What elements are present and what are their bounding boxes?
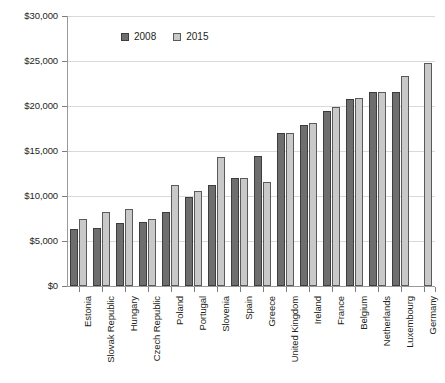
bar-group <box>274 16 297 286</box>
x-axis-tick <box>378 287 379 292</box>
bar <box>378 92 386 286</box>
bar-group <box>366 16 389 286</box>
x-axis-tick <box>171 287 172 292</box>
bar <box>70 229 78 286</box>
x-axis-label: United Kingdom <box>290 296 300 362</box>
bar <box>277 133 285 286</box>
plot-area: $0$5,000$10,000$15,000$20,000$25,000$30,… <box>67 16 435 286</box>
legend-swatch-2015-icon <box>173 33 181 41</box>
y-axis-label-20000: $20,000 <box>24 101 58 111</box>
x-axis-label: Poland <box>175 296 185 325</box>
bar <box>300 125 308 286</box>
x-axis-tick <box>148 287 149 292</box>
bar-group <box>343 16 366 286</box>
x-axis-tick <box>401 287 402 292</box>
y-axis-label-5000: $5,000 <box>30 236 58 246</box>
x-axis-label: Slovenia <box>221 296 231 332</box>
bar-group <box>251 16 274 286</box>
x-axis-label: Slovak Republic <box>106 296 116 363</box>
legend-label-2015: 2015 <box>186 32 208 42</box>
bar <box>240 178 248 286</box>
bar <box>162 212 170 286</box>
x-axis-tick <box>125 287 126 292</box>
bar <box>217 157 225 286</box>
bar <box>254 156 262 287</box>
bar <box>148 219 156 287</box>
bar-chart: $0$5,000$10,000$15,000$20,000$25,000$30,… <box>0 0 445 383</box>
y-axis-label-0: $0 <box>48 281 58 291</box>
y-axis-label-15000: $15,000 <box>24 146 58 156</box>
bar <box>79 219 87 287</box>
x-axis-label: Estonia <box>83 296 93 327</box>
bar-group <box>389 16 412 286</box>
bar <box>369 92 377 286</box>
legend-swatch-2008-icon <box>121 33 129 41</box>
bar-group <box>67 16 90 286</box>
x-axis-label: France <box>336 296 346 325</box>
y-axis-label-30000: $30,000 <box>24 11 58 21</box>
x-axis-tick <box>332 287 333 292</box>
y-axis-label-10000: $10,000 <box>24 191 58 201</box>
bar <box>102 212 110 286</box>
x-axis-end-tick <box>435 287 436 292</box>
bar-group <box>159 16 182 286</box>
chart-legend: 2008 2015 <box>121 32 209 42</box>
bar <box>346 99 354 286</box>
x-axis-tick <box>309 287 310 292</box>
bar <box>125 209 133 286</box>
bar-group <box>136 16 159 286</box>
x-axis-tick <box>424 287 425 292</box>
bar <box>194 191 202 286</box>
legend-item-2008: 2008 <box>121 32 156 42</box>
bar <box>171 185 179 286</box>
x-axis-tick <box>263 287 264 292</box>
x-axis-label: Hungary <box>129 296 139 331</box>
bar-group <box>182 16 205 286</box>
x-axis-tick <box>79 287 80 292</box>
x-axis-label: Germany <box>428 296 438 334</box>
bar <box>139 222 147 286</box>
x-axis-tick <box>355 287 356 292</box>
bar-group <box>113 16 136 286</box>
bar-group <box>412 16 435 286</box>
bar <box>332 107 340 286</box>
x-axis-tick <box>286 287 287 292</box>
legend-label-2008: 2008 <box>134 32 156 42</box>
x-axis-label: Portugal <box>198 296 208 331</box>
x-axis-label: Czech Republic <box>152 296 162 361</box>
bar <box>401 76 409 286</box>
bar-group <box>297 16 320 286</box>
bar-group <box>90 16 113 286</box>
y-axis-label-25000: $25,000 <box>24 56 58 66</box>
x-axis-tick <box>240 287 241 292</box>
x-axis-tick <box>194 287 195 292</box>
x-axis-label: Ireland <box>313 296 323 324</box>
bar-group <box>320 16 343 286</box>
bar <box>93 228 101 287</box>
bar <box>424 63 432 286</box>
bar <box>263 182 271 286</box>
legend-item-2015: 2015 <box>173 32 208 42</box>
bar <box>185 197 193 286</box>
bar-group <box>228 16 251 286</box>
bar-group <box>205 16 228 286</box>
x-axis-tick <box>217 287 218 292</box>
bar <box>323 111 331 287</box>
gridline-0: $0 <box>67 286 435 287</box>
bar <box>231 178 239 286</box>
bar <box>208 185 216 286</box>
x-axis-label: Belgium <box>359 296 369 330</box>
bar <box>286 133 294 286</box>
x-axis-tick <box>102 287 103 292</box>
x-axis-label: Greece <box>267 296 277 327</box>
x-axis-label: Luxembourg <box>405 296 415 348</box>
bar <box>355 98 363 286</box>
bar <box>392 92 400 286</box>
x-axis-label: Spain <box>244 296 254 320</box>
y-axis-line <box>67 16 68 287</box>
bar <box>116 223 124 286</box>
bar <box>309 123 317 286</box>
x-axis-label: Netherlands <box>382 296 392 346</box>
